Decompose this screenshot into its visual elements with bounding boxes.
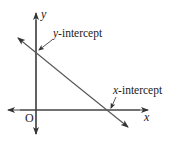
y-intercept-label: y-intercept [52, 27, 103, 40]
y-intercept-pointer [39, 40, 52, 50]
x-intercept-pointer [111, 97, 116, 108]
x-axis-label: x [143, 110, 150, 124]
x-intercept-label: x-intercept [112, 84, 163, 97]
intercepts-diagram: y x O y-intercept x-intercept [0, 0, 178, 144]
graph-line [18, 38, 128, 127]
y-axis-label: y [40, 7, 47, 21]
diagram-svg: y x O y-intercept x-intercept [0, 0, 178, 144]
origin-label: O [25, 111, 34, 125]
